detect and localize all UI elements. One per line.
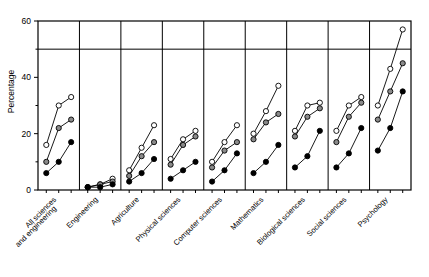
category-label: Mathematics: [229, 195, 266, 232]
series-line-series-solid-circle: [46, 142, 71, 173]
data-point-open-circle: [222, 140, 227, 145]
series-line-series-half-circle: [212, 142, 237, 167]
y-tick-labels-layer: 0204060: [22, 16, 32, 195]
data-point-half-filled-circle: [139, 154, 144, 159]
data-point-open-circle: [69, 94, 74, 99]
data-point-solid-circle: [151, 156, 156, 161]
data-point-half-filled-circle: [234, 140, 239, 145]
data-point-open-circle: [305, 103, 310, 108]
data-point-open-circle: [139, 145, 144, 150]
data-point-open-circle: [44, 142, 49, 147]
data-point-solid-circle: [334, 165, 339, 170]
series-layer: [44, 27, 406, 190]
category-label-group: Mathematics: [229, 195, 266, 232]
data-point-open-circle: [359, 94, 364, 99]
data-point-half-filled-circle: [388, 89, 393, 94]
data-point-open-circle: [209, 159, 214, 164]
data-point-solid-circle: [44, 171, 49, 176]
data-point-solid-circle: [69, 140, 74, 145]
data-point-half-filled-circle: [276, 111, 281, 116]
data-point-solid-circle: [359, 125, 364, 130]
data-point-solid-circle: [251, 171, 256, 176]
y-tick-label: 40: [22, 72, 32, 82]
category-label: Psychology: [356, 195, 390, 229]
data-point-half-filled-circle: [317, 106, 322, 111]
data-point-open-circle: [334, 128, 339, 133]
data-point-open-circle: [151, 123, 156, 128]
data-point-solid-circle: [400, 89, 405, 94]
data-point-solid-circle: [180, 168, 185, 173]
data-point-solid-circle: [375, 148, 380, 153]
data-point-solid-circle: [110, 182, 115, 187]
category-label-group: Agriculture: [109, 195, 141, 227]
y-tick-label: 20: [22, 129, 32, 139]
chart-root: 0204060 All sciencesand engineeringEngin…: [0, 0, 429, 277]
data-point-open-circle: [400, 27, 405, 32]
data-point-open-circle: [276, 83, 281, 88]
category-label-group: Engineering: [65, 195, 100, 230]
data-point-solid-circle: [85, 185, 90, 190]
data-point-half-filled-circle: [359, 100, 364, 105]
data-point-solid-circle: [168, 176, 173, 181]
data-point-half-filled-circle: [168, 162, 173, 167]
data-point-half-filled-circle: [127, 173, 132, 178]
data-point-solid-circle: [127, 179, 132, 184]
data-point-half-filled-circle: [56, 125, 61, 130]
data-point-open-circle: [168, 156, 173, 161]
category-label-group: Social sciences: [305, 195, 349, 239]
data-point-solid-circle: [388, 125, 393, 130]
data-point-half-filled-circle: [69, 117, 74, 122]
plot-border: [38, 21, 411, 190]
data-point-solid-circle: [222, 168, 227, 173]
data-point-open-circle: [317, 100, 322, 105]
data-point-half-filled-circle: [292, 134, 297, 139]
data-point-solid-circle: [317, 128, 322, 133]
data-point-solid-circle: [346, 151, 351, 156]
data-point-half-filled-circle: [193, 134, 198, 139]
data-point-solid-circle: [234, 151, 239, 156]
data-point-open-circle: [234, 123, 239, 128]
series-line-series-solid-circle: [295, 131, 320, 168]
data-point-solid-circle: [56, 159, 61, 164]
data-point-solid-circle: [209, 179, 214, 184]
series-line-series-solid-circle: [378, 91, 403, 150]
data-point-half-filled-circle: [375, 117, 380, 122]
data-point-open-circle: [346, 103, 351, 108]
data-point-half-filled-circle: [44, 159, 49, 164]
data-point-solid-circle: [98, 185, 103, 190]
category-label-group: All sciencesand engineering: [13, 195, 58, 249]
data-point-half-filled-circle: [209, 165, 214, 170]
data-point-solid-circle: [276, 142, 281, 147]
small-multiples-line-chart: 0204060 All sciencesand engineeringEngin…: [0, 0, 429, 277]
data-point-solid-circle: [193, 159, 198, 164]
data-point-open-circle: [127, 168, 132, 173]
data-point-open-circle: [375, 103, 380, 108]
y-tick-label: 60: [22, 16, 32, 26]
data-point-half-filled-circle: [263, 120, 268, 125]
data-point-open-circle: [292, 128, 297, 133]
data-point-half-filled-circle: [251, 137, 256, 142]
data-point-open-circle: [263, 109, 268, 114]
data-point-half-filled-circle: [222, 148, 227, 153]
category-label: Agriculture: [109, 195, 141, 227]
axis-title-layer: Percentage: [6, 69, 16, 113]
data-point-solid-circle: [263, 159, 268, 164]
category-label: Social sciences: [305, 195, 349, 239]
data-point-half-filled-circle: [346, 114, 351, 119]
data-point-solid-circle: [305, 154, 310, 159]
data-point-half-filled-circle: [151, 140, 156, 145]
data-point-half-filled-circle: [180, 142, 185, 147]
category-labels-layer: All sciencesand engineeringEngineeringAg…: [13, 195, 390, 249]
data-point-open-circle: [193, 128, 198, 133]
data-point-half-filled-circle: [334, 140, 339, 145]
data-point-open-circle: [251, 131, 256, 136]
category-label-group: Psychology: [356, 195, 390, 229]
data-point-solid-circle: [139, 171, 144, 176]
data-point-half-filled-circle: [305, 114, 310, 119]
y-axis-title: Percentage: [6, 69, 16, 113]
plot-frame-layer: [38, 21, 411, 190]
data-point-solid-circle: [292, 165, 297, 170]
data-point-open-circle: [180, 137, 185, 142]
y-tick-label: 0: [26, 185, 31, 195]
data-point-open-circle: [56, 103, 61, 108]
